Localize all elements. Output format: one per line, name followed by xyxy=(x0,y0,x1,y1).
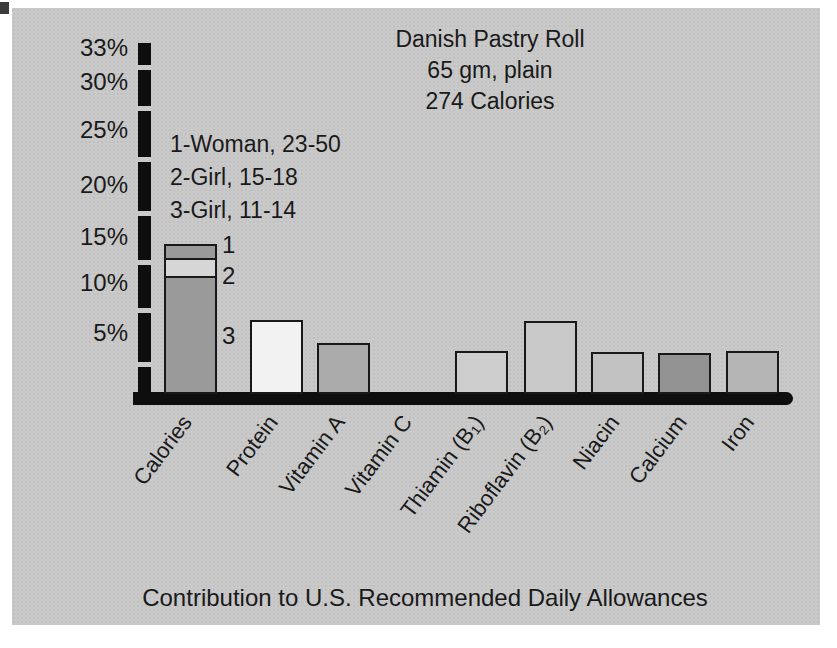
y-axis-tick-label: 10% xyxy=(30,269,128,297)
y-axis-tick-label: 5% xyxy=(30,319,128,347)
axis-tick-notch xyxy=(136,157,153,162)
bar-riboflavin-b- xyxy=(524,321,577,394)
stack-mark-label-3: 3 xyxy=(222,322,235,350)
axis-tick-notch xyxy=(136,260,153,265)
axis-tick-notch xyxy=(136,106,153,111)
bar-protein xyxy=(250,320,303,394)
stack-mark-label-2: 2 xyxy=(222,262,235,290)
y-axis-tick-label: 33% xyxy=(30,34,128,62)
bar-niacin xyxy=(591,352,644,394)
chart-title-line-2: 65 gm, plain xyxy=(360,55,620,86)
y-axis-tick-label: 15% xyxy=(30,223,128,251)
bar-thiamin-b- xyxy=(455,351,508,394)
legend-entry-1: 1-Woman, 23-50 xyxy=(170,128,341,161)
legend-entry-3: 3-Girl, 11-14 xyxy=(170,194,341,227)
bar-vitamin-a xyxy=(317,343,370,394)
bar-iron xyxy=(726,351,779,394)
axis-tick-notch xyxy=(136,362,153,367)
chart-title-line-3: 274 Calories xyxy=(360,86,620,117)
figure: Danish Pastry Roll 65 gm, plain 274 Calo… xyxy=(0,0,837,648)
axis-tick-notch xyxy=(136,308,153,313)
chart-title-block: Danish Pastry Roll 65 gm, plain 274 Calo… xyxy=(360,24,620,117)
legend: 1-Woman, 23-50 2-Girl, 15-18 3-Girl, 11-… xyxy=(170,128,341,227)
axis-tick-notch xyxy=(136,65,153,70)
chart-caption: Contribution to U.S. Recommended Daily A… xyxy=(110,584,740,612)
axis-tick-notch xyxy=(136,211,153,216)
y-axis-tick-label: 25% xyxy=(30,116,128,144)
y-axis-tick-label: 20% xyxy=(30,171,128,199)
y-axis xyxy=(138,43,151,392)
bar-segment-girl-15-18 xyxy=(164,258,217,278)
bar-calcium xyxy=(658,353,711,394)
y-axis-tick-label: 30% xyxy=(30,68,128,96)
stack-mark-label-1: 1 xyxy=(222,231,235,259)
legend-entry-2: 2-Girl, 15-18 xyxy=(170,161,341,194)
chart-title-line-1: Danish Pastry Roll xyxy=(360,24,620,55)
scan-artifact xyxy=(0,2,9,14)
